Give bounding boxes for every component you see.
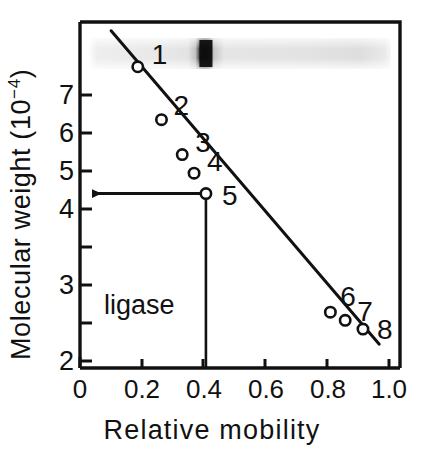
y-axis-title: Molecular weight (10−4) bbox=[6, 69, 35, 360]
x-tick-label-1.0: 1.0 bbox=[361, 376, 417, 402]
x-tick-label-0.6: 0.6 bbox=[238, 376, 294, 402]
y-tick-label-5: 5 bbox=[40, 158, 74, 185]
data-point-label-1: 1 bbox=[152, 41, 168, 69]
gel-band bbox=[199, 40, 212, 67]
y-tick-label-4: 4 bbox=[40, 196, 74, 223]
data-point-label-8: 8 bbox=[377, 316, 393, 344]
y-tick-label-3: 3 bbox=[40, 272, 74, 299]
x-tick-label-0.4: 0.4 bbox=[176, 376, 232, 402]
data-point-label-2: 2 bbox=[173, 92, 189, 120]
data-point-1 bbox=[133, 62, 143, 72]
data-point-label-7: 7 bbox=[357, 298, 373, 326]
y-axis-title-exponent: −4 bbox=[5, 78, 24, 99]
y-tick-label-2: 2 bbox=[40, 348, 74, 375]
x-tick-label-0: 0 bbox=[66, 376, 94, 402]
data-point-label-6: 6 bbox=[340, 283, 356, 311]
data-point-3 bbox=[177, 149, 187, 159]
x-tick-label-0.2: 0.2 bbox=[114, 376, 170, 402]
data-point-label-5: 5 bbox=[222, 182, 238, 210]
x-tick-label-0.8: 0.8 bbox=[300, 376, 356, 402]
y-tick-label-6: 6 bbox=[40, 120, 74, 147]
y-axis-ticks bbox=[80, 95, 92, 361]
ligase-annotation bbox=[92, 194, 206, 368]
data-point-4 bbox=[189, 168, 199, 178]
data-point-7 bbox=[340, 315, 350, 325]
data-point-2 bbox=[156, 114, 166, 124]
ligase-annotation-label: ligase bbox=[104, 292, 175, 319]
y-axis-title-tail: ) bbox=[6, 69, 36, 79]
data-point-5 bbox=[201, 188, 211, 198]
data-point-label-4: 4 bbox=[207, 148, 223, 176]
data-point-6 bbox=[325, 307, 335, 317]
y-tick-label-7: 7 bbox=[40, 82, 74, 109]
x-axis-title: Relative mobility bbox=[0, 417, 424, 444]
figure-panel: 7 6 5 4 3 2 0 0.2 0.4 0.6 0.8 1.0 ligase… bbox=[0, 0, 424, 463]
y-axis-title-base: Molecular weight (10 bbox=[6, 99, 36, 360]
